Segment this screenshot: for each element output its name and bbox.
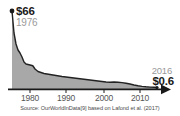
peak-year-label: 1976 bbox=[16, 18, 37, 28]
solar-price-chart: $66 1976 2016 $0.6 1980 1990 2000 2010 S… bbox=[0, 0, 180, 116]
x-tick-label-1990: 1990 bbox=[57, 93, 75, 103]
peak-value-label: $66 bbox=[16, 6, 35, 18]
source-caption: Source: OurWorldInData[9] based on Lafon… bbox=[0, 105, 180, 111]
x-axis-tick-labels: 1980 1990 2000 2010 bbox=[0, 93, 180, 104]
x-tick-label-1980: 1980 bbox=[21, 93, 39, 103]
end-value-label: $0.6 bbox=[152, 76, 174, 88]
x-tick-label-2000: 2000 bbox=[95, 93, 113, 103]
x-tick-label-2010: 2010 bbox=[131, 93, 149, 103]
peak-point-marker bbox=[10, 9, 15, 14]
